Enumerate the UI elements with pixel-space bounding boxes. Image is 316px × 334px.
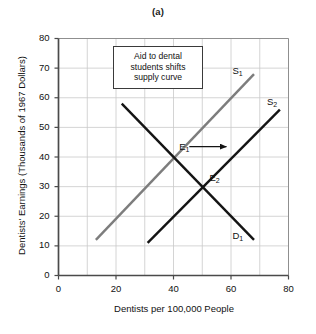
y-tick-label: 80 (26, 33, 50, 43)
x-tick-label: 60 (218, 284, 244, 294)
y-tick-label: 70 (26, 63, 50, 73)
equilibrium-label-E1-text: E (179, 141, 185, 152)
y-tick-label: 10 (26, 240, 50, 250)
y-tick-label: 30 (26, 181, 50, 191)
y-tick-label: 60 (26, 92, 50, 102)
economics-supply-demand-figure: (a) Dentists' Earnings (Thousands of 196… (0, 0, 316, 334)
y-tick-label: 0 (26, 270, 50, 280)
x-tick-label: 0 (46, 284, 72, 294)
curve-label-S2: S2 (267, 96, 277, 107)
x-tick-label: 40 (161, 284, 187, 294)
shift-callout-box: Aid to dental students shifts supply cur… (113, 46, 203, 89)
data-series (96, 74, 280, 243)
curve-D1 (122, 104, 254, 240)
equilibrium-label-E1: E1 (179, 141, 189, 152)
equilibrium-label-E1-subscript: 1 (186, 146, 190, 153)
x-tick-label: 80 (276, 284, 302, 294)
curve-label-S1-text: S (232, 65, 238, 76)
x-tick-label: 20 (103, 284, 129, 294)
curve-label-S1-subscript: 1 (239, 70, 243, 77)
callout-line-2: students shifts (116, 62, 200, 73)
curve-label-S2-subscript: 2 (273, 101, 277, 108)
equilibrium-label-E2-text: E (209, 172, 215, 183)
y-tick-label: 50 (26, 122, 50, 132)
y-tick-label: 40 (26, 152, 50, 162)
curve-label-D1-subscript: 1 (239, 235, 243, 242)
curve-label-D1: D1 (232, 230, 243, 241)
curve-label-S1: S1 (232, 65, 242, 76)
callout-line-3: supply curve (116, 72, 200, 83)
equilibrium-label-E2-subscript: 2 (216, 177, 220, 184)
equilibrium-label-E2: E2 (209, 172, 219, 183)
callout-line-1: Aid to dental (116, 51, 200, 62)
y-tick-label: 20 (26, 211, 50, 221)
